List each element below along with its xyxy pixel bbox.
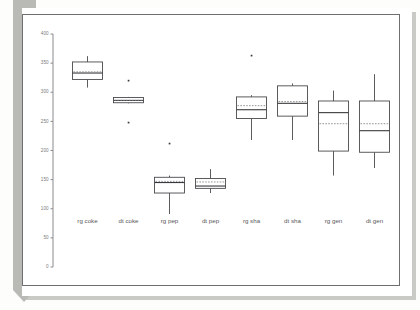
y-axis-tick-label: 350 xyxy=(41,60,49,65)
boxplot-box-dt-sha xyxy=(278,84,308,141)
y-axis-tick-label: 400 xyxy=(41,31,49,36)
x-axis-category-labels: rg cokedt cokerg pepdt peprg shadt sharg… xyxy=(77,217,383,224)
y-axis-tick-label: 300 xyxy=(41,89,49,94)
outlier-point xyxy=(169,143,171,145)
boxplot-series xyxy=(73,55,390,214)
boxplot-chart: 050100150200250300350400 rg cokedt coker… xyxy=(23,15,399,285)
y-axis-tick-label: 50 xyxy=(43,235,49,240)
x-axis-label-rg-pep: rg pep xyxy=(161,217,179,224)
boxplot-box-dt-pep xyxy=(196,169,226,193)
x-axis-label-dt-pep: dt pep xyxy=(202,217,220,224)
scanned-page-canvas: 050100150200250300350400 rg cokedt coker… xyxy=(0,0,420,310)
boxplot-box-dt-coke xyxy=(114,80,144,124)
outlier-point xyxy=(128,80,130,82)
boxplot-box-rg-pep xyxy=(155,143,185,214)
boxplot-box-rg-coke xyxy=(73,56,103,87)
boxplot-box-dt-gen xyxy=(360,74,390,168)
x-axis-label-rg-sha: rg sha xyxy=(243,217,261,224)
x-axis-label-dt-gen: dt gen xyxy=(366,217,384,224)
y-axis-tick-label: 200 xyxy=(41,148,49,153)
box-iqr xyxy=(155,177,185,193)
x-axis-label-dt-sha: dt sha xyxy=(284,217,301,224)
boxplot-box-rg-sha xyxy=(237,55,267,140)
y-axis-tick-label: 250 xyxy=(41,119,49,124)
y-axis: 050100150200250300350400 xyxy=(41,31,53,269)
box-iqr xyxy=(360,101,390,152)
chart-frame: 050100150200250300350400 rg cokedt coker… xyxy=(22,14,400,286)
outlier-point xyxy=(251,55,253,57)
box-iqr xyxy=(278,86,308,116)
y-axis-tick-label: 100 xyxy=(41,206,49,211)
box-iqr xyxy=(73,62,103,79)
y-axis-tick-label: 0 xyxy=(46,264,49,269)
outlier-point xyxy=(128,122,130,124)
box-iqr xyxy=(237,97,267,119)
box-iqr xyxy=(196,178,226,188)
boxplot-box-rg-gen xyxy=(319,91,349,176)
y-axis-tick-label: 150 xyxy=(41,177,49,182)
x-axis-label-dt-coke: dt coke xyxy=(119,217,140,224)
x-axis-label-rg-gen: rg gen xyxy=(325,217,343,224)
x-axis-label-rg-coke: rg coke xyxy=(77,217,98,224)
box-iqr xyxy=(319,101,349,151)
